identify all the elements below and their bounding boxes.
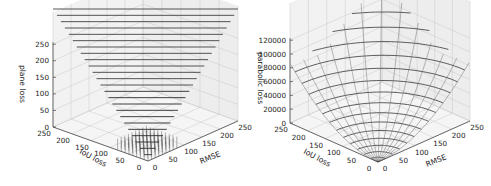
x-tick-label: 0	[153, 163, 158, 172]
z-tick-label: 80000	[263, 63, 286, 72]
z-tick-label: 20000	[263, 105, 286, 114]
y-tick-label: 200	[56, 136, 70, 145]
z-tick-label: 200	[35, 56, 49, 65]
z-tick-label: 100	[35, 89, 49, 98]
plane-loss-plot: 0501001502002500501001502002500501001502…	[18, 0, 252, 172]
x-tick-label: 150	[433, 139, 447, 148]
z-tick-label: 150	[35, 73, 49, 82]
x-axis-label: RMSE	[198, 149, 221, 165]
y-tick-label: 150	[309, 141, 323, 150]
figure: 0501001502002500501001502002500501001502…	[0, 0, 491, 186]
z-axis-label: parabolic loss	[256, 52, 265, 104]
x-tick-label: 250	[470, 123, 484, 132]
z-axis-label: plane loss	[18, 65, 27, 103]
x-tick-label: 100	[415, 148, 429, 157]
x-tick-label: 50	[399, 156, 409, 165]
x-tick-label: 0	[383, 164, 388, 173]
y-tick-label: 250	[37, 129, 51, 138]
x-tick-label: 50	[168, 155, 178, 164]
x-tick-label: 200	[220, 131, 234, 140]
y-tick-label: 250	[274, 125, 288, 134]
y-tick-label: 50	[347, 156, 357, 165]
y-tick-label: 0	[137, 163, 142, 172]
figure-canvas: 0501001502002500501001502002500501001502…	[0, 0, 491, 186]
x-tick-label: 100	[184, 147, 198, 156]
y-tick-label: 50	[115, 156, 125, 165]
y-tick-label: 0	[367, 164, 372, 173]
z-tick-label: 250	[35, 40, 49, 49]
y-tick-label: 200	[292, 133, 306, 142]
z-tick-label: 50	[40, 106, 50, 115]
x-tick-label: 200	[452, 131, 466, 140]
z-tick-label: 40000	[263, 91, 286, 100]
z-tick-label: 120000	[259, 36, 287, 45]
parabolic-loss-plot: 0200004000060000800001000001200000501001…	[256, 0, 484, 173]
y-tick-label: 100	[327, 148, 341, 157]
x-tick-label: 150	[202, 139, 216, 148]
x-tick-label: 250	[238, 123, 252, 132]
z-tick-label: 60000	[263, 77, 286, 86]
